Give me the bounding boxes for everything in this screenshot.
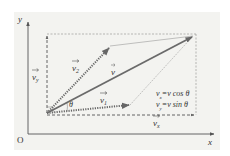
origin-label: O [17, 136, 24, 145]
v-label: v [111, 68, 115, 77]
vx-label: vx [153, 119, 160, 131]
x-axis-label: x [208, 138, 212, 147]
v2-label: v2 [72, 64, 79, 76]
vector-arrow-icon [111, 63, 115, 67]
theta-label: θ [69, 100, 73, 109]
vector-arrow-icon [153, 114, 160, 118]
vector-arrow-icon [100, 91, 107, 95]
vector-arrow-icon [72, 59, 79, 63]
vy-label: vy [32, 73, 39, 85]
v1-label: v1 [100, 96, 107, 108]
y-axis-label: y [18, 15, 22, 24]
equation-vy: vy=v sin θ [156, 100, 188, 113]
vector-arrow-icon [32, 68, 39, 72]
